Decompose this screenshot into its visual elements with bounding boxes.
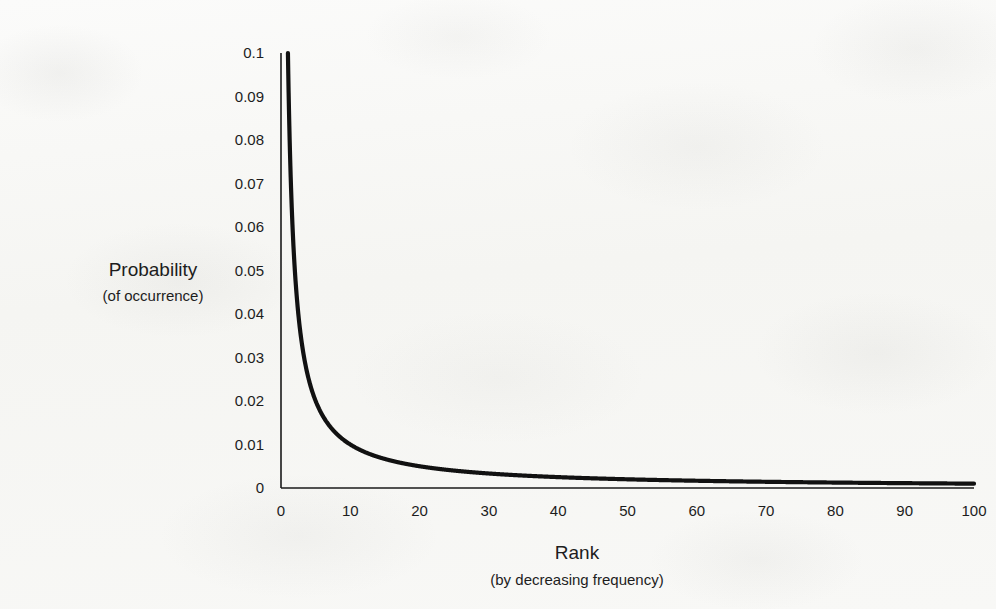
rank-tick-label: 10 (342, 502, 359, 519)
rank-tick-label: 70 (758, 502, 775, 519)
rank-tick-label: 20 (411, 502, 428, 519)
probability-axis-tick-labels: 0.10.090.080.070.060.050.040.030.020.010 (235, 44, 264, 496)
probability-tick-label: 0.03 (235, 349, 264, 366)
probability-tick-label: 0.05 (235, 262, 264, 279)
rank-tick-label: 80 (827, 502, 844, 519)
rank-tick-label: 50 (619, 502, 636, 519)
probability-tick-label: 0.08 (235, 131, 264, 148)
probability-tick-label: 0.06 (235, 218, 264, 235)
probability-axis-subtitle: (of occurrence) (103, 287, 204, 304)
probability-tick-label: 0.02 (235, 392, 264, 409)
probability-tick-label: 0.07 (235, 175, 264, 192)
rank-tick-label: 40 (550, 502, 567, 519)
rank-tick-label: 60 (688, 502, 705, 519)
probability-axis-title-group: Probability (of occurrence) (103, 259, 204, 304)
zipf-distribution-chart: 0.10.090.080.070.060.050.040.030.020.010… (40, 16, 956, 593)
chart-canvas: 0.10.090.080.070.060.050.040.030.020.010… (40, 16, 996, 609)
probability-tick-label: 0.04 (235, 305, 264, 322)
rank-axis-title-group: Rank (by decreasing frequency) (490, 542, 663, 588)
probability-tick-label: 0 (256, 479, 264, 496)
rank-tick-label: 100 (961, 502, 986, 519)
axis-lines (281, 53, 974, 488)
rank-axis-subtitle: (by decreasing frequency) (490, 571, 663, 588)
rank-axis-title: Rank (555, 542, 600, 563)
rank-axis-tick-labels: 0102030405060708090100 (277, 502, 987, 519)
probability-tick-label: 0.01 (235, 436, 264, 453)
probability-axis-title: Probability (109, 259, 198, 280)
probability-tick-label: 0.09 (235, 88, 264, 105)
rank-tick-label: 30 (481, 502, 498, 519)
zipf-curve-line (288, 53, 974, 484)
rank-tick-label: 90 (896, 502, 913, 519)
rank-tick-label: 0 (277, 502, 285, 519)
probability-tick-label: 0.1 (243, 44, 264, 61)
